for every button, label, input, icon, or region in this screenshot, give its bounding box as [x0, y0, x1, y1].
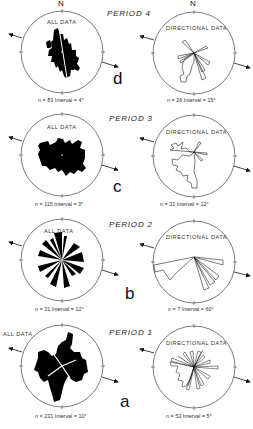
north-label: N — [190, 0, 196, 8]
panel-letter: c — [113, 177, 122, 197]
directional-data-title: DIRECTIONAL DATA — [166, 25, 227, 31]
all-data-caption: n = 115 Interval = 3° — [35, 201, 83, 207]
rose-directional-period-1 — [140, 324, 250, 410]
all-data-caption: n = 83 Interval = 4° — [38, 97, 84, 103]
period-label: PERIOD 3 — [109, 114, 153, 123]
directional-data-title: DIRECTIONAL DATA — [166, 340, 227, 346]
rose-diagram-figure: N N PERIOD 4 ALL DATA DIRECTIONAL DATA d… — [0, 0, 253, 429]
all-data-caption: n = 31 Interval = 12° — [35, 306, 84, 312]
all-data-title: ALL DATA — [47, 124, 76, 130]
directional-caption: n = 7 Interval = 60° — [168, 306, 214, 312]
period-label: PERIOD 1 — [109, 328, 153, 337]
directional-data-title: DIRECTIONAL DATA — [166, 234, 227, 240]
all-data-caption: n = 231 Interval = 10° — [35, 413, 87, 419]
period-label: PERIOD 4 — [107, 9, 151, 18]
period-label: PERIOD 2 — [109, 220, 153, 229]
panel-letter: b — [125, 284, 134, 304]
directional-data-title: DIRECTIONAL DATA — [166, 129, 227, 135]
directional-caption: n = 53 Interval = 5° — [166, 413, 212, 419]
rose-directional-period-3 — [140, 113, 250, 199]
rose-directional-period-2 — [140, 219, 250, 305]
all-data-title: ALL DATA — [47, 19, 76, 25]
rose-directional-period-4 — [140, 10, 250, 96]
all-data-title: ALL DATA — [44, 228, 73, 234]
north-label: N — [58, 0, 64, 8]
all-data-title: ALL DATA — [3, 331, 32, 337]
rose-diagram-canvas — [0, 0, 253, 429]
directional-caption: n = 26 Interval = 15° — [167, 97, 216, 103]
panel-letter: a — [120, 392, 129, 412]
panel-letter: d — [113, 69, 122, 89]
directional-caption: n = 31 Interval = 12° — [160, 201, 209, 207]
